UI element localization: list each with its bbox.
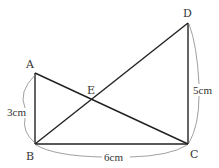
measure-ab: 3cm	[7, 106, 26, 118]
label-d: D	[183, 7, 192, 20]
label-a: A	[25, 58, 35, 71]
label-e: E	[87, 84, 95, 97]
measure-bc: 6cm	[104, 151, 123, 163]
measure-cd: 5cm	[193, 84, 212, 96]
label-b: B	[26, 150, 34, 163]
geometry-diagram: A B C D E 3cm 6cm 5cm	[0, 0, 219, 168]
label-c: C	[190, 148, 198, 161]
